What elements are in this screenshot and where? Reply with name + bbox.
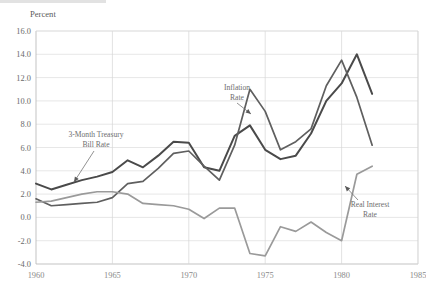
y-tick-label: 14.0 [16,50,31,59]
y-tick-label: 8.0 [21,120,31,129]
y-tick-label: 16.0 [16,27,31,36]
x-tick-label: 1965 [104,271,121,280]
y-tick-label: 0.0 [21,213,31,222]
y-tick-label: 6.0 [21,144,31,153]
tbill-label-line2: Bill Rate [82,140,110,149]
x-tick-label: 1970 [180,271,197,280]
y-tick-label: -4.0 [18,260,31,269]
y-tick-label: 10.0 [16,97,31,106]
x-tick-label: 1975 [257,271,274,280]
inflation-label-line2: Rate [230,93,245,102]
real-rate-label-line1: Real Interest [351,200,390,209]
real-rate-label-line2: Rate [363,210,378,219]
tbill-label-line1: 3-Month Treasury [68,130,123,139]
x-tick-label: 1985 [410,271,426,280]
economic-rates-line-chart: 16.014.012.010.08.06.04.02.00.0-2.0-4.01… [0,0,426,289]
y-tick-label: 4.0 [21,167,31,176]
y-tick-label: 2.0 [21,190,31,199]
inflation-label-line1: Inflation [224,83,250,92]
y-tick-label: 12.0 [16,74,31,83]
chart-container: 16.014.012.010.08.06.04.02.00.0-2.0-4.01… [0,0,426,289]
y-tick-label: -2.0 [18,237,31,246]
y-axis-title-text: Percent [30,9,56,19]
x-tick-label: 1980 [333,271,350,280]
series-line-1 [36,54,372,189]
inflation-label-arrow-head [245,109,251,114]
x-tick-label: 1960 [28,271,45,280]
